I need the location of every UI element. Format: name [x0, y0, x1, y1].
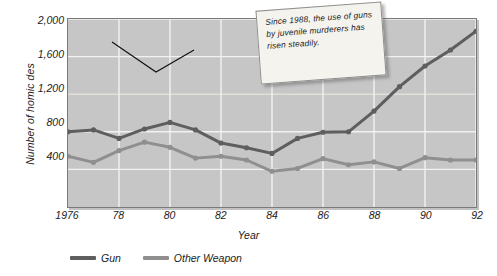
data-point-other-weapon-1985 [295, 166, 300, 171]
x-tick-1976: 1976 [55, 209, 78, 221]
x-tick-1984: 84 [266, 209, 278, 221]
data-point-other-weapon-1990 [422, 155, 427, 160]
data-point-other-weapon-1986 [320, 156, 325, 161]
data-point-gun-1990 [422, 63, 427, 68]
callout-leader-line [110, 40, 200, 90]
data-point-other-weapon-1977 [91, 160, 96, 165]
data-point-gun-1988 [371, 109, 376, 114]
data-point-gun-1976 [68, 129, 71, 134]
y-tick-1600: 1,600 [22, 48, 64, 60]
data-point-other-weapon-1982 [218, 154, 223, 159]
x-tick-1986: 86 [317, 209, 329, 221]
x-axis-title: Year [0, 229, 497, 241]
data-point-gun-1982 [218, 141, 223, 146]
legend-item-other-weapon: Other Weapon [143, 252, 242, 264]
data-point-other-weapon-1988 [371, 159, 376, 164]
x-tick-1992: 92 [471, 209, 483, 221]
data-point-gun-1985 [295, 136, 300, 141]
data-point-gun-1991 [448, 47, 453, 52]
x-tick-1988: 88 [369, 209, 381, 221]
legend-swatch-other-weapon [143, 256, 169, 260]
data-point-other-weapon-1984 [269, 169, 274, 174]
data-point-gun-1977 [91, 127, 96, 132]
x-axis-tick-labels: 19767880828486889092 [0, 209, 497, 229]
x-tick-1990: 90 [420, 209, 432, 221]
annotation-callout: Since 1988, the use of guns by juvenile … [258, 6, 382, 78]
data-point-gun-1983 [244, 145, 249, 150]
legend-item-gun: Gun [70, 252, 121, 264]
data-point-gun-1987 [346, 129, 351, 134]
x-tick-1978: 78 [112, 209, 124, 221]
data-point-other-weapon-1983 [244, 157, 249, 162]
y-tick-1200: 1,200 [22, 82, 64, 94]
data-point-gun-1981 [193, 127, 198, 132]
x-tick-1980: 80 [164, 209, 176, 221]
x-tick-1982: 82 [215, 209, 227, 221]
y-tick-800: 800 [22, 116, 64, 128]
callout-text: Since 1988, the use of guns by juvenile … [256, 2, 385, 83]
data-point-other-weapon-1979 [142, 140, 147, 145]
data-point-other-weapon-1992 [473, 157, 476, 162]
data-point-other-weapon-1981 [193, 156, 198, 161]
data-point-gun-1978 [116, 136, 121, 141]
data-point-gun-1979 [142, 126, 147, 131]
data-point-gun-1989 [397, 84, 402, 89]
data-point-gun-1984 [269, 151, 274, 156]
y-tick-2000: 2,000 [22, 14, 64, 26]
legend-label-other-weapon: Other Weapon [174, 252, 242, 264]
data-point-gun-1980 [167, 120, 172, 125]
chart-legend: Gun Other Weapon [70, 252, 242, 264]
y-tick-400: 400 [22, 150, 64, 162]
legend-label-gun: Gun [101, 252, 121, 264]
data-point-other-weapon-1980 [167, 145, 172, 150]
data-point-other-weapon-1989 [397, 166, 402, 171]
legend-swatch-gun [70, 256, 96, 260]
data-point-gun-1986 [320, 130, 325, 135]
chart-figure: Number of homic des 2,000 1,600 1,200 80… [0, 0, 497, 276]
data-point-other-weapon-1987 [346, 162, 351, 167]
data-point-other-weapon-1978 [116, 148, 121, 153]
data-point-other-weapon-1991 [448, 157, 453, 162]
